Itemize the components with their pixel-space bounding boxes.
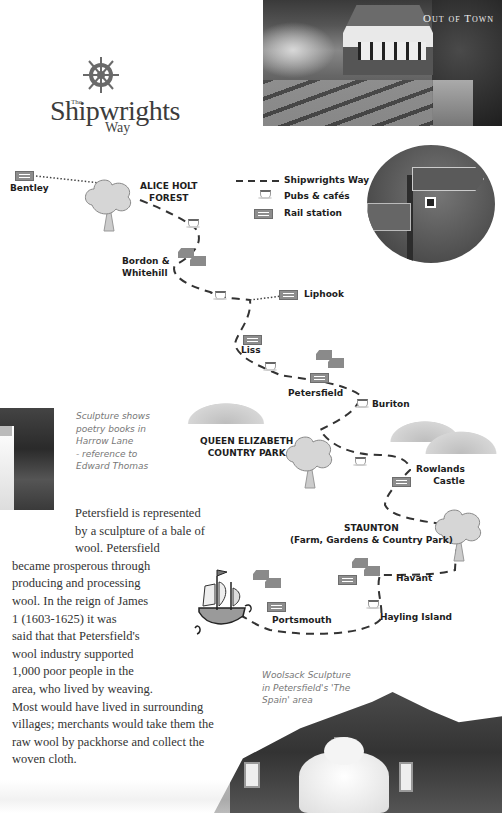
caption-line: Edward Thomas xyxy=(76,460,150,473)
body-line: by a sculpture of a bale of xyxy=(12,523,252,541)
sculpture-image-part xyxy=(0,426,12,436)
houses-icon xyxy=(316,350,348,372)
body-line: Petersfield is represented xyxy=(12,505,252,523)
place-label-queen-elizabeth: QUEEN ELIZABETH COUNTRY PARK xyxy=(200,435,293,459)
tree-icon xyxy=(82,175,136,235)
place-label-bordon: Bordon & Whitehill xyxy=(122,255,170,279)
houses-icon xyxy=(178,248,210,270)
body-line: wool industry supported xyxy=(12,646,252,664)
cup-icon xyxy=(366,600,380,610)
place-label-alice-holt: ALICE HOLT FOREST xyxy=(140,180,198,204)
fade-decoration xyxy=(0,780,230,813)
rail-icon xyxy=(15,171,34,181)
rail-icon xyxy=(267,602,286,612)
place-label-line: (Farm, Gardens & Country Park) xyxy=(290,535,453,545)
body-line: producing and processing xyxy=(12,575,252,593)
caption-line: - reference to xyxy=(76,448,150,461)
body-line: wool. In the reign of James xyxy=(12,593,252,611)
cup-icon xyxy=(353,457,367,467)
place-label-line: COUNTRY PARK xyxy=(208,448,286,458)
rail-icon xyxy=(392,477,411,487)
rail-icon xyxy=(279,290,298,300)
body-line: became prosperous through xyxy=(12,558,252,576)
hill-icon xyxy=(182,400,270,424)
place-label-hayling-island: Hayling Island xyxy=(380,611,452,623)
cup-icon xyxy=(186,219,200,229)
cup-icon xyxy=(213,291,227,301)
place-label-liphook: Liphook xyxy=(304,288,344,300)
sculpture-image-part xyxy=(0,426,14,510)
caption-line: Harrow Lane xyxy=(76,435,150,448)
place-label-line: Castle xyxy=(433,476,465,486)
window-image-part xyxy=(399,762,413,792)
houses-icon xyxy=(253,570,285,592)
hill-icon xyxy=(420,428,502,454)
sculpture-caption: Sculpture shows poetry books in Harrow L… xyxy=(76,410,150,473)
body-line: 1 (1603-1625) it was xyxy=(12,611,252,629)
place-label-line: FOREST xyxy=(149,193,189,203)
place-label-staunton: STAUNTON (Farm, Gardens & Country Park) xyxy=(290,522,453,546)
body-line: said that that Petersfield's xyxy=(12,628,252,646)
rail-icon xyxy=(338,575,357,585)
place-label-line: Bordon & xyxy=(122,256,170,266)
body-line: 1,000 poor people in the xyxy=(12,663,252,681)
place-label-line: STAUNTON xyxy=(344,523,399,533)
place-label-petersfield: Petersfield xyxy=(288,387,343,399)
cup-icon xyxy=(263,362,277,372)
place-label-line: QUEEN ELIZABETH xyxy=(200,436,293,446)
window-image-part xyxy=(244,762,260,788)
place-label-buriton: Buriton xyxy=(372,398,410,410)
caption-line: Sculpture shows xyxy=(76,410,150,423)
caption-line: poetry books in xyxy=(76,423,150,436)
cup-icon xyxy=(355,399,369,409)
place-label-line: Rowlands xyxy=(416,464,465,474)
rail-icon xyxy=(310,373,329,383)
place-label-rowlands-castle: Rowlands Castle xyxy=(416,463,465,487)
place-label-havant: Havant xyxy=(396,572,432,584)
woolsack-sculpture-photo xyxy=(214,692,502,813)
place-label-liss: Liss xyxy=(241,344,261,356)
woolsack-image-part xyxy=(324,737,364,765)
caption-line: Woolsack Sculpture xyxy=(262,669,351,682)
place-label-line: Whitehill xyxy=(122,268,168,278)
body-line: wool. Petersfield xyxy=(12,540,252,558)
place-label-portsmouth: Portsmouth xyxy=(272,614,332,626)
poetry-sculpture-photo xyxy=(0,408,54,510)
place-label-bentley: Bentley xyxy=(10,182,49,194)
place-label-line: ALICE HOLT xyxy=(140,181,198,191)
